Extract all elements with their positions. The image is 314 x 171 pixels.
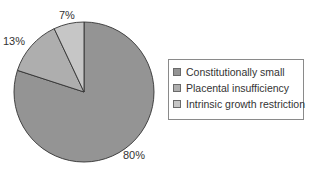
legend-swatch xyxy=(173,100,181,108)
slice-label-intrinsic-growth-restriction: 7% xyxy=(59,10,75,21)
legend-label: Placental insufficiency xyxy=(186,82,289,94)
legend-item-constitutionally-small: Constitutionally small xyxy=(173,66,285,78)
pie-chart xyxy=(0,0,160,171)
chart-legend: Constitutionally small Placental insuffi… xyxy=(168,59,304,120)
slice-label-constitutionally-small: 80% xyxy=(123,150,145,161)
legend-label: Constitutionally small xyxy=(186,66,285,78)
legend-label: Intrinsic growth restriction xyxy=(186,98,305,110)
legend-swatch xyxy=(173,84,181,92)
legend-swatch xyxy=(173,68,181,76)
legend-item-placental-insufficiency: Placental insufficiency xyxy=(173,82,289,94)
slice-label-placental-insufficiency: 13% xyxy=(3,36,25,47)
legend-item-intrinsic-growth-restriction: Intrinsic growth restriction xyxy=(173,98,305,110)
